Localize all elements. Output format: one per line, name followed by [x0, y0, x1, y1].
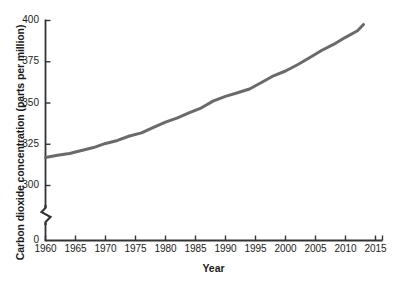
tick-marks — [46, 21, 376, 241]
axis-lines — [45, 20, 383, 241]
plot-area — [0, 0, 415, 285]
y-axis-break-icon — [41, 205, 51, 225]
series-line-0 — [46, 24, 364, 157]
chart-figure: Carbon dioxide concentration (parts per … — [0, 0, 415, 285]
data-series-group — [46, 24, 364, 157]
